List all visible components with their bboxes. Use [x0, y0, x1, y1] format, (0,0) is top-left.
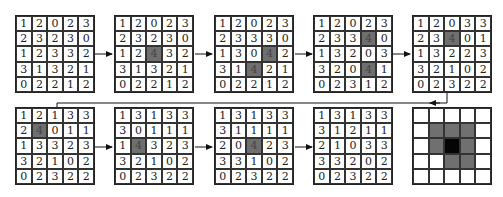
flow-arrows [0, 0, 503, 197]
wrap-connector [57, 93, 447, 107]
